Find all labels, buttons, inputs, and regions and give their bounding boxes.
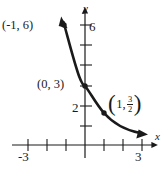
fraction-denominator: 2 [127, 105, 133, 114]
y-axis-label: y [83, 3, 88, 14]
data-point-0-3 [82, 83, 87, 88]
x-axis-label: x [155, 131, 160, 142]
x-tick-label-negative-3: -3 [18, 150, 29, 163]
close-paren: ) [134, 95, 142, 114]
y-axis-ticks [80, 25, 92, 126]
exponential-curve [64, 22, 141, 133]
point-label-0-3: (0, 3) [37, 78, 64, 91]
fraction-numerator: 3 [127, 95, 133, 104]
open-paren: ( [108, 95, 116, 114]
y-tick-label-2: 2 [72, 101, 79, 114]
point-label-inner: 1 , 3 2 [116, 95, 134, 113]
point-label-1-three-halves: ( 1 , 3 2 ) [108, 95, 141, 114]
y-tick-label-6: 6 [89, 20, 96, 33]
x-tick-label-3: 3 [135, 150, 142, 163]
fraction-three-halves: 3 2 [127, 95, 133, 113]
data-point-1-1point5 [101, 110, 106, 115]
curve-arrow-lower-right [136, 130, 148, 139]
point-label-neg1-6: (-1, 6) [2, 19, 33, 32]
graph-figure: y x 6 2 -3 3 (-1, 6) (0, 3) ( 1 , 3 2 ) [0, 0, 168, 171]
data-point-neg1-6 [61, 22, 66, 27]
